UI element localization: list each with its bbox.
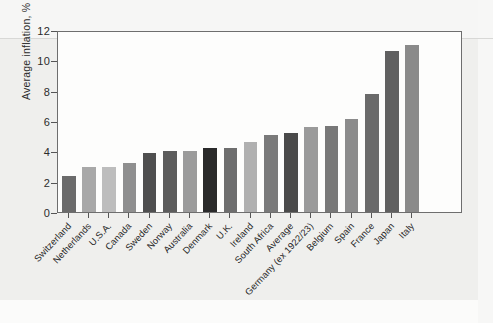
bar bbox=[62, 176, 76, 212]
bar bbox=[203, 148, 217, 212]
x-axis-tick-mark bbox=[371, 213, 372, 218]
y-axis-tick-label: 12 bbox=[20, 25, 50, 37]
y-axis-tick-label: 2 bbox=[20, 177, 50, 189]
y-axis-tick-label: 10 bbox=[20, 55, 50, 67]
x-axis-tick-mark bbox=[209, 213, 210, 218]
x-axis-tick-mark bbox=[391, 213, 392, 218]
x-axis-tick-mark bbox=[189, 213, 190, 218]
bar bbox=[143, 153, 157, 212]
bar bbox=[264, 135, 278, 212]
x-axis-tick-mark bbox=[250, 213, 251, 218]
chart-page: Average inflation, % 024681012 Switzerla… bbox=[0, 0, 493, 323]
bar bbox=[244, 142, 258, 212]
x-axis-tick-mark bbox=[128, 213, 129, 218]
x-axis-tick-mark bbox=[68, 213, 69, 218]
plot-area bbox=[57, 31, 462, 213]
y-axis-tick-mark bbox=[51, 213, 57, 214]
bar bbox=[123, 163, 137, 212]
bar bbox=[325, 126, 339, 212]
bar bbox=[163, 151, 177, 212]
x-axis-tick-mark bbox=[108, 213, 109, 218]
y-axis-tick-label: 8 bbox=[20, 86, 50, 98]
bar bbox=[183, 151, 197, 212]
bars-container bbox=[58, 32, 461, 212]
bar bbox=[304, 127, 318, 212]
y-axis-tick-label: 6 bbox=[20, 116, 50, 128]
page-right-margin bbox=[478, 0, 493, 323]
x-axis-tick-mark bbox=[169, 213, 170, 218]
x-axis-tick-mark bbox=[330, 213, 331, 218]
x-axis-tick-mark bbox=[149, 213, 150, 218]
bar bbox=[102, 167, 116, 213]
x-axis-tick-mark bbox=[290, 213, 291, 218]
bar bbox=[224, 148, 238, 212]
bar bbox=[385, 51, 399, 212]
x-axis-tick-mark bbox=[351, 213, 352, 218]
y-axis-tick-label: 4 bbox=[20, 146, 50, 158]
bar bbox=[284, 133, 298, 212]
bar bbox=[405, 45, 419, 212]
bar bbox=[345, 119, 359, 212]
x-axis-tick-mark bbox=[270, 213, 271, 218]
page-background-bottom bbox=[0, 300, 493, 323]
y-axis-tick-label: 0 bbox=[20, 207, 50, 219]
x-axis-tick-mark bbox=[310, 213, 311, 218]
x-axis-tick-mark bbox=[88, 213, 89, 218]
x-axis-tick-mark bbox=[229, 213, 230, 218]
x-axis-tick-mark bbox=[411, 213, 412, 218]
bar bbox=[365, 94, 379, 212]
bar bbox=[82, 167, 96, 213]
